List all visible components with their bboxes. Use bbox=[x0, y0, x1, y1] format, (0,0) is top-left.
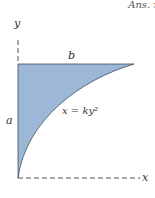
x-axis-label: x bbox=[142, 172, 148, 183]
area-diagram bbox=[0, 0, 155, 198]
width-label: b bbox=[68, 50, 75, 61]
curve-equation-label: x = ky² bbox=[62, 106, 98, 116]
height-label: a bbox=[6, 115, 13, 126]
y-axis-label: y bbox=[14, 18, 20, 29]
shaded-area bbox=[18, 64, 134, 178]
